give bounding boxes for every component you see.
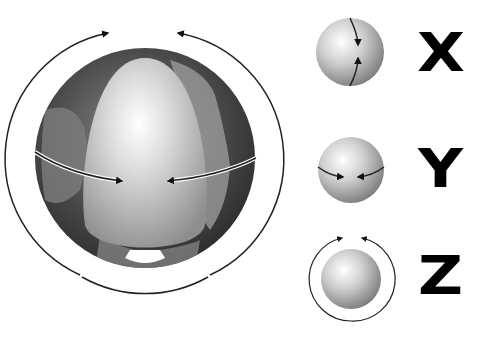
y-axis-sphere — [318, 137, 384, 203]
label-z: Z — [418, 249, 463, 303]
label-x: X — [417, 26, 465, 80]
main-globe — [35, 48, 256, 270]
diagram-canvas — [0, 0, 482, 337]
x-axis-sphere — [316, 18, 384, 86]
orbit-bottom — [82, 277, 208, 294]
label-y: Y — [418, 142, 463, 196]
z-axis-sphere — [309, 238, 395, 321]
